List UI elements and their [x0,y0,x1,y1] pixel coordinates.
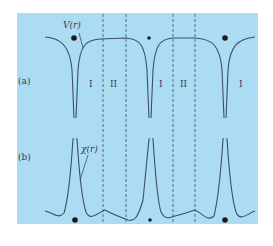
region-label-I: I [239,79,243,89]
region-label-II: II [180,79,188,89]
v-pointer-arrow [79,33,83,48]
region-label-I: I [159,79,163,89]
atoms-row-b [72,217,228,223]
region-label-I: I [89,79,93,89]
chi-curve [45,139,255,220]
diagram-canvas: V(r) (a) (b) I II I II I χ(r) [0,0,273,246]
atom-dot [148,218,152,222]
atom-dot [147,36,151,40]
v-curve-label: V(r) [63,20,81,30]
atom-dot [222,35,228,41]
atom-dot [222,217,228,223]
panel-b-label: (b) [18,152,31,162]
atom-dot [71,35,77,41]
panel-a-label: (a) [18,76,30,86]
chi-pointer-arrow [80,155,88,180]
region-label-II: II [110,79,118,89]
atom-dot [72,217,78,223]
potential-curve [45,37,255,118]
chi-curve-label: χ(r) [80,144,98,154]
